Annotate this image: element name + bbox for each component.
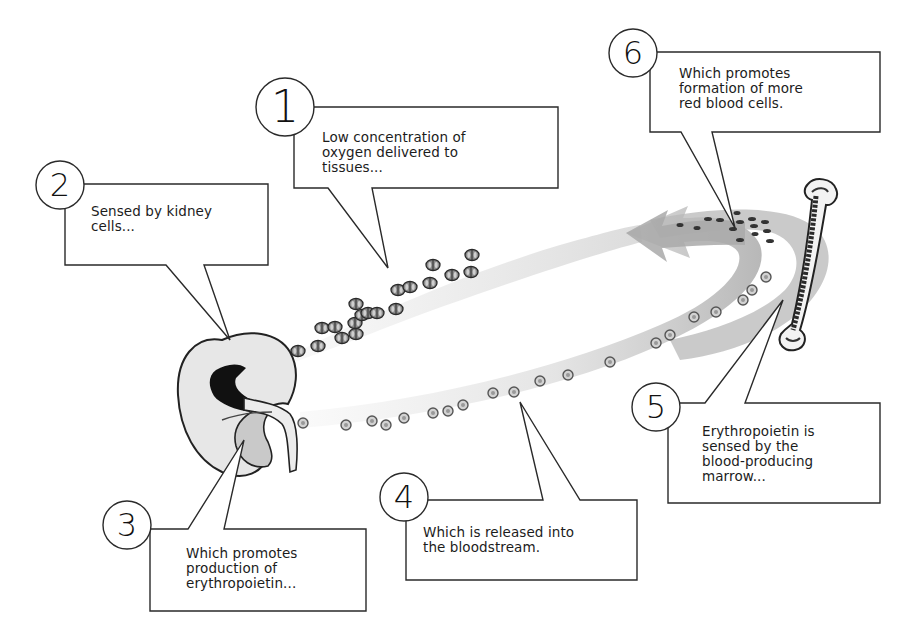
femur-bone-icon (780, 179, 838, 350)
step-number-5: 5 (636, 387, 676, 427)
step-2-text: Sensed by kidney cells... (91, 204, 212, 234)
step-number-1: 1 (264, 86, 306, 128)
step-number-3: 3 (107, 505, 147, 545)
step-1-text: Low concentration of oxygen delivered to… (322, 130, 466, 175)
step-number-4: 4 (384, 477, 424, 517)
step-6-text: Which promotes formation of more red blo… (679, 66, 803, 111)
step-5-text: Erythropoietin is sensed by the blood-pr… (702, 424, 815, 484)
step-4-text: Which is released into the bloodstream. (423, 525, 574, 555)
step-number-2: 2 (40, 165, 80, 205)
step-3-text: Which promotes production of erythropoie… (186, 546, 297, 591)
step-number-6: 6 (613, 33, 653, 73)
